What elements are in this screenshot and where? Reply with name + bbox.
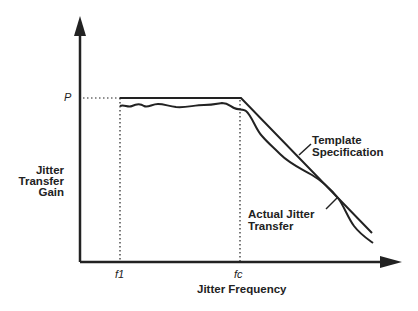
y-axis-arrowhead bbox=[74, 16, 86, 36]
actual-transfer-label: Actual Jitter Transfer bbox=[248, 208, 314, 232]
template-spec-label: Template Specification bbox=[312, 134, 384, 158]
template-label-line-2: Specification bbox=[312, 146, 384, 158]
actual-label-line-1: Actual Jitter bbox=[248, 208, 314, 220]
y-axis-label-line-3: Gain bbox=[4, 186, 64, 198]
template-curve bbox=[120, 98, 372, 233]
x-axis-label: Jitter Frequency bbox=[197, 283, 286, 295]
template-callout-line bbox=[299, 144, 311, 155]
actual-callout-line bbox=[326, 198, 337, 209]
fc-tick-label: fc bbox=[234, 268, 243, 280]
f1-tick-label: f1 bbox=[115, 268, 124, 280]
template-label-line-1: Template bbox=[312, 134, 384, 146]
x-axis-arrowhead bbox=[380, 256, 402, 268]
p-tick-label: P bbox=[64, 91, 71, 103]
y-axis-label: Jitter Transfer Gain bbox=[4, 164, 64, 198]
actual-transfer-curve bbox=[120, 103, 373, 243]
actual-label-line-2: Transfer bbox=[248, 220, 314, 232]
